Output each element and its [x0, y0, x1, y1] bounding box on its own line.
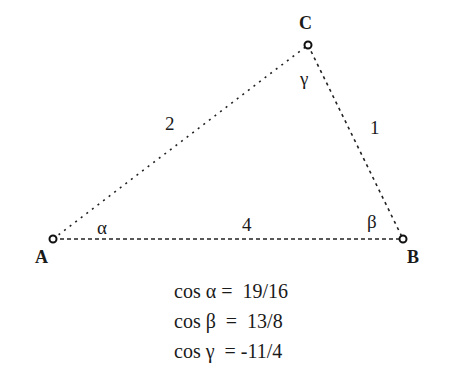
equation-cos-beta: cos β = 13/8 [174, 306, 288, 336]
vertex-b-marker [400, 236, 407, 243]
side-ac-length: 2 [165, 114, 175, 133]
cosine-equations: cos α = 19/16 cos β = 13/8 cos γ = -11/4 [174, 276, 288, 366]
angle-gamma-label: γ [300, 69, 308, 88]
side-cb-length: 1 [370, 118, 380, 137]
side-cb [308, 45, 403, 239]
equation-cos-alpha: cos α = 19/16 [174, 276, 288, 306]
equation-cos-gamma: cos γ = -11/4 [174, 336, 288, 366]
side-ac [53, 45, 308, 239]
vertex-c-label: C [299, 14, 312, 32]
vertex-a-marker [50, 236, 57, 243]
angle-alpha-label: α [97, 218, 107, 237]
angle-beta-label: β [367, 212, 377, 231]
vertex-b-label: B [407, 248, 419, 266]
vertex-a-label: A [35, 248, 48, 266]
vertex-c-marker [305, 42, 312, 49]
side-ab-length: 4 [242, 215, 252, 234]
